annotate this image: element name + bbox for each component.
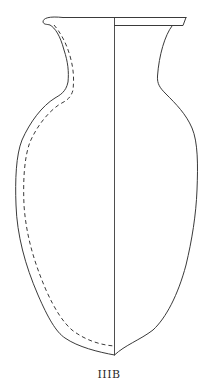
right-exterior-profile <box>115 26 198 355</box>
left-rim-section <box>16 17 115 355</box>
figure-label: IIIB <box>0 368 218 381</box>
right-rim-lip <box>115 18 187 26</box>
vessel-drawing <box>0 0 218 388</box>
interior-profile <box>24 25 115 346</box>
